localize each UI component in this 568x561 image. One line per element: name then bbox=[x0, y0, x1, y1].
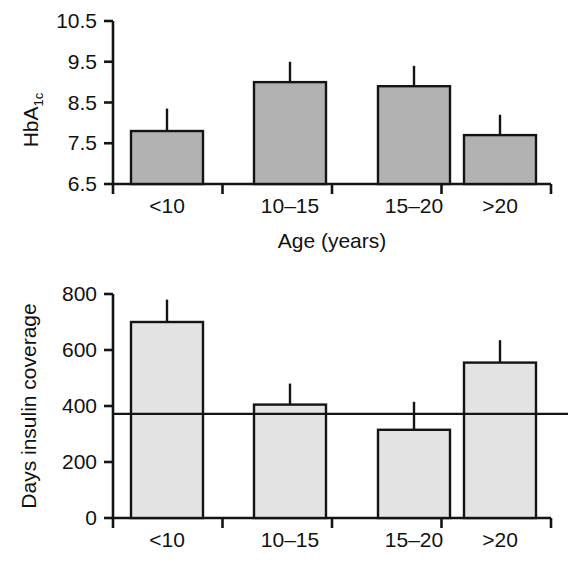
hba1c-y-ticks bbox=[104, 21, 113, 184]
y-tick-label: 6.5 bbox=[68, 172, 97, 195]
insulin-x-ticks bbox=[113, 518, 551, 528]
hba1c-x-tick-labels: <1010–1515–20>20 bbox=[149, 194, 518, 217]
hba1c-y-axis-title: HbA1c bbox=[19, 92, 46, 147]
bar-10–15 bbox=[254, 82, 326, 184]
chart-canvas: 6.57.58.59.510.5 <1010–1515–20>20 HbA1c … bbox=[0, 0, 568, 561]
bar-<10 bbox=[131, 131, 203, 184]
bar-15–20 bbox=[378, 86, 450, 184]
bar->20 bbox=[464, 135, 536, 184]
y-tick-label: 8.5 bbox=[68, 91, 97, 114]
x-tick-label: >20 bbox=[482, 194, 518, 217]
insulin-error-bars bbox=[167, 300, 500, 430]
y-tick-label: 200 bbox=[62, 450, 97, 473]
x-tick-label: <10 bbox=[149, 528, 185, 551]
bar-15–20 bbox=[378, 430, 450, 518]
x-tick-label: <10 bbox=[149, 194, 185, 217]
insulin-y-axis-title: Days insulin coverage bbox=[17, 303, 40, 508]
panel-days-insulin-coverage: 0200400600800 <1010–1515–20>20 Days insu… bbox=[17, 282, 568, 551]
y-tick-label: 7.5 bbox=[68, 131, 97, 154]
x-tick-label: >20 bbox=[482, 528, 518, 551]
insulin-x-tick-labels: <1010–1515–20>20 bbox=[149, 528, 518, 551]
y-tick-label: 400 bbox=[62, 394, 97, 417]
panel-hba1c: 6.57.58.59.510.5 <1010–1515–20>20 HbA1c … bbox=[19, 9, 551, 252]
insulin-y-ticks bbox=[104, 294, 113, 518]
bar->20 bbox=[464, 363, 536, 518]
bar-<10 bbox=[131, 322, 203, 518]
x-tick-label: 15–20 bbox=[385, 194, 443, 217]
figure-container: 6.57.58.59.510.5 <1010–1515–20>20 HbA1c … bbox=[0, 0, 568, 561]
insulin-y-tick-labels: 0200400600800 bbox=[62, 282, 97, 529]
y-tick-label: 0 bbox=[85, 506, 97, 529]
bar-10–15 bbox=[254, 405, 326, 518]
y-tick-label: 10.5 bbox=[56, 9, 97, 32]
hba1c-bars bbox=[131, 82, 536, 184]
x-tick-label: 10–15 bbox=[261, 194, 319, 217]
y-tick-label: 600 bbox=[62, 338, 97, 361]
insulin-bars bbox=[131, 322, 536, 518]
hba1c-y-tick-labels: 6.57.58.59.510.5 bbox=[56, 9, 97, 195]
x-tick-label: 10–15 bbox=[261, 528, 319, 551]
x-tick-label: 15–20 bbox=[385, 528, 443, 551]
age-x-axis-title: Age (years) bbox=[278, 229, 387, 252]
y-tick-label: 9.5 bbox=[68, 50, 97, 73]
hba1c-x-ticks bbox=[113, 184, 551, 194]
y-tick-label: 800 bbox=[62, 282, 97, 305]
